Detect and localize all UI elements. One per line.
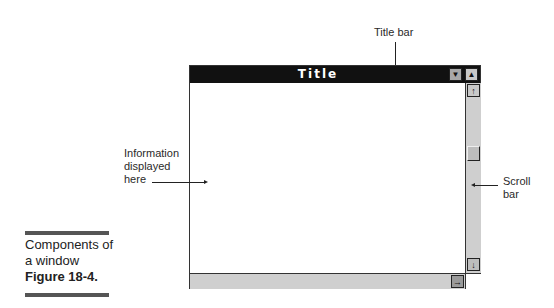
figure-number: Figure 18-4. [25, 269, 113, 285]
info-callout: Information displayed here [124, 147, 179, 186]
triangle-down-icon: ▼ [452, 70, 460, 79]
arrow-up-icon: ↑ [471, 86, 476, 96]
scroll-thumb[interactable] [467, 146, 480, 161]
title-bar-callout: Title bar [374, 26, 413, 39]
scroll-arrowhead-icon [471, 183, 475, 187]
caption-line1: Components of [25, 237, 113, 253]
arrow-down-icon: ↓ [471, 260, 476, 270]
scroll-right-button[interactable]: → [451, 275, 464, 288]
scroll-leader-line [475, 185, 498, 186]
scroll-up-button[interactable]: ↑ [467, 84, 480, 97]
figure-caption: Components of a window Figure 18-4. [25, 237, 113, 285]
caption-bottom-rule [25, 293, 109, 297]
info-callout-line2: displayed [124, 160, 179, 173]
horizontal-scroll-bar[interactable]: → [190, 273, 465, 289]
arrow-right-icon: → [453, 277, 462, 287]
maximize-button[interactable]: ▲ [465, 68, 478, 81]
info-callout-line3: here [124, 173, 179, 186]
title-bar-leader-line [395, 42, 396, 65]
resize-corner[interactable] [465, 273, 481, 289]
minimize-button[interactable]: ▼ [449, 68, 462, 81]
scroll-callout-line2: bar [503, 188, 531, 201]
vertical-scroll-bar[interactable]: ↑ ↓ [465, 83, 481, 273]
scroll-callout: Scroll bar [503, 175, 531, 201]
window: Title ▼ ▲ ↑ ↓ → [189, 65, 481, 289]
window-title: Title [190, 67, 446, 81]
scroll-down-button[interactable]: ↓ [467, 258, 480, 271]
title-bar[interactable]: Title ▼ ▲ [190, 66, 480, 83]
info-callout-line1: Information [124, 147, 179, 160]
info-leader-line [152, 182, 204, 183]
caption-top-rule [25, 231, 109, 235]
info-arrowhead-icon [204, 180, 208, 184]
scroll-callout-line1: Scroll [503, 175, 531, 188]
caption-line2: a window [25, 253, 113, 269]
triangle-up-icon: ▲ [468, 70, 476, 79]
